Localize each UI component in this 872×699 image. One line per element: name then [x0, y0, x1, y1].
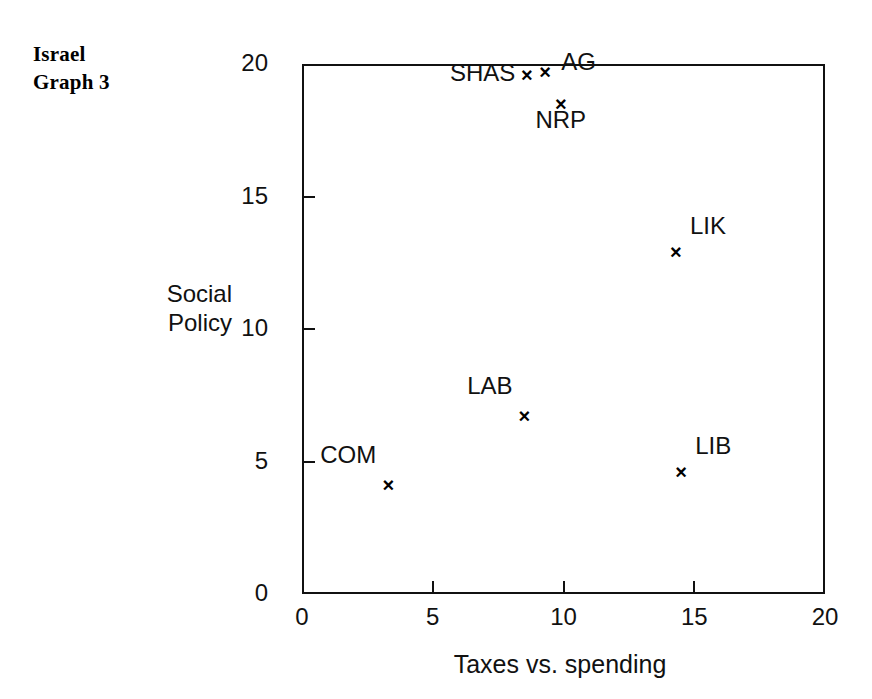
y-tick-5: [302, 461, 315, 463]
data-point-lik: ×: [668, 244, 684, 260]
data-point-label-nrp: NRP: [535, 108, 586, 132]
y-tick-label-10: 10: [208, 316, 268, 340]
data-point-label-lik: LIK: [690, 214, 726, 238]
data-point-com: ×: [380, 477, 396, 493]
chart-canvas: Israel Graph 3 Social Policy 05101520 05…: [0, 0, 872, 699]
x-tick-15: [693, 581, 695, 594]
data-point-lib: ×: [673, 464, 689, 480]
data-point-lab: ×: [516, 408, 532, 424]
x-tick-label-10: 10: [534, 605, 594, 629]
data-point-label-com: COM: [320, 443, 376, 467]
x-tick-5: [432, 581, 434, 594]
x-axis-title: Taxes vs. spending: [360, 650, 760, 678]
plot-area: [302, 64, 825, 594]
y-tick-15: [302, 196, 315, 198]
y-tick-label-5: 5: [208, 449, 268, 473]
data-point-label-ag: AG: [561, 50, 596, 74]
x-tick-label-15: 15: [664, 605, 724, 629]
x-tick-label-0: 0: [272, 605, 332, 629]
x-tick-10: [563, 581, 565, 594]
y-axis-title-line-1: Social: [70, 279, 232, 308]
data-point-label-lib: LIB: [695, 434, 731, 458]
data-point-shas: ×: [519, 67, 535, 83]
x-tick-label-5: 5: [403, 605, 463, 629]
y-tick-label-15: 15: [208, 184, 268, 208]
y-tick-10: [302, 328, 315, 330]
chart-title-line-1: Israel: [33, 40, 233, 68]
x-tick-label-20: 20: [795, 605, 855, 629]
data-point-label-lab: LAB: [467, 374, 512, 398]
chart-title-line-2: Graph 3: [33, 68, 233, 96]
chart-title: Israel Graph 3: [33, 40, 233, 96]
data-point-ag: ×: [537, 64, 553, 80]
data-point-label-shas: SHAS: [450, 61, 515, 85]
y-tick-label-20: 20: [208, 51, 268, 75]
y-tick-label-0: 0: [208, 581, 268, 605]
